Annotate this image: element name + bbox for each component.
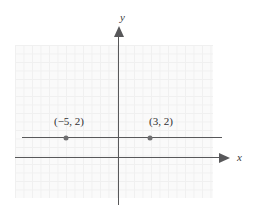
- plotted-line: [22, 137, 222, 138]
- data-point-marker: [64, 135, 69, 140]
- data-point-label: (3, 2): [149, 116, 173, 127]
- data-point-label: (−5, 2): [54, 116, 84, 127]
- x-axis-label: x: [237, 152, 242, 163]
- x-axis-arrowhead-icon: [219, 153, 230, 163]
- graph-figure: x y (−5, 2) (3, 2): [0, 0, 265, 215]
- graph-grid-background: [15, 45, 213, 198]
- data-point-marker: [148, 135, 153, 140]
- y-axis-line: [118, 32, 119, 205]
- y-axis-arrowhead-icon: [114, 26, 124, 37]
- y-axis-label: y: [120, 12, 125, 23]
